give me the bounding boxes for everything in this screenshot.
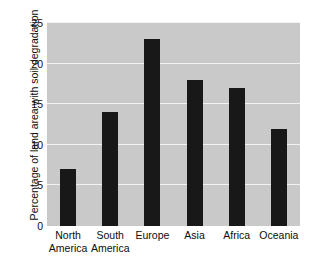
gridline: [47, 144, 300, 145]
y-tick-label: 15: [3, 98, 43, 110]
bar-chart-figure: Percentage of land area with soil degrad…: [0, 0, 317, 270]
bar: [187, 80, 203, 226]
bar: [271, 129, 287, 226]
x-tick-label-line: North: [47, 229, 89, 242]
y-axis-tick-labels: 0510152025: [0, 23, 43, 226]
x-tick-label: Europe: [131, 229, 173, 242]
x-tick-label: NorthAmerica: [47, 229, 89, 254]
plot-area: [47, 23, 300, 226]
gridline: [47, 184, 300, 185]
x-axis-tick-labels: NorthAmericaSouthAmericaEuropeAsiaAfrica…: [47, 229, 300, 269]
y-tick-label: 0: [3, 220, 43, 232]
x-tick-label-line: Europe: [131, 229, 173, 242]
chart-title-clipped: [0, 0, 317, 3]
x-tick-label-line: Asia: [174, 229, 216, 242]
y-tick-label: 25: [3, 17, 43, 29]
bar: [144, 39, 160, 226]
y-tick-label: 5: [3, 179, 43, 191]
gridline: [47, 103, 300, 104]
x-tick-label: Asia: [174, 229, 216, 242]
bar: [102, 112, 118, 226]
x-tick-label: SouthAmerica: [89, 229, 131, 254]
y-tick-label: 20: [3, 58, 43, 70]
y-tick-label: 10: [3, 139, 43, 151]
x-tick-label-line: Africa: [216, 229, 258, 242]
x-tick-label-line: Oceania: [258, 229, 300, 242]
x-tick-label-line: America: [89, 242, 131, 255]
x-tick-label: Oceania: [258, 229, 300, 242]
gridline: [47, 22, 300, 23]
gridline: [47, 63, 300, 64]
bar: [60, 169, 76, 226]
bar: [229, 88, 245, 226]
x-tick-label-line: South: [89, 229, 131, 242]
x-tick-label: Africa: [216, 229, 258, 242]
x-tick-label-line: America: [47, 242, 89, 255]
